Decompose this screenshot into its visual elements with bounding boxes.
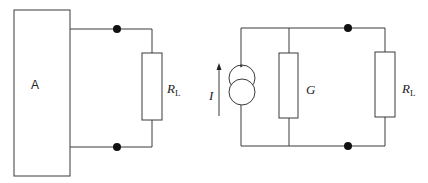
right-load-resistor — [375, 52, 395, 117]
left-bottom-terminal — [113, 143, 121, 151]
right-top-wire — [241, 28, 385, 65]
shunt-label: G — [306, 82, 316, 97]
shunt-conductance — [279, 53, 298, 118]
network-a-label: A — [31, 78, 39, 92]
circuit-diagram: A RL I G RL — [0, 0, 428, 183]
left-top-wire — [70, 29, 152, 53]
left-circuit: A RL — [14, 10, 180, 176]
left-load-resistor — [142, 53, 162, 120]
right-top-terminal — [344, 24, 352, 32]
left-bottom-wire — [70, 120, 152, 147]
right-bottom-terminal — [344, 142, 352, 150]
current-arrow-icon — [217, 63, 222, 116]
source-current-label: I — [208, 88, 214, 103]
network-a-box — [14, 10, 70, 176]
left-top-terminal — [113, 25, 121, 33]
right-circuit: I G RL — [208, 24, 415, 150]
right-bottom-wire — [241, 105, 385, 146]
right-load-label: RL — [401, 81, 415, 98]
current-source-icon — [229, 65, 255, 106]
left-load-label: RL — [166, 81, 180, 98]
